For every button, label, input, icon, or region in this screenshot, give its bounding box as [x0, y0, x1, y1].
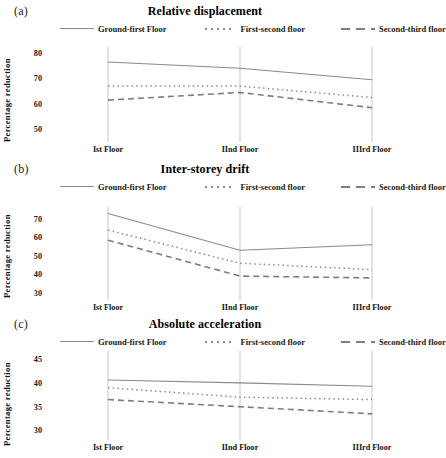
plot-area-b: 3040506070Ist FloorIInd FloorIIIrd Floor [0, 158, 404, 313]
y-tick-label: 30 [34, 289, 42, 298]
x-tick-label: Ist Floor [93, 303, 124, 312]
chart-svg-a: 50607080Ist FloorIInd FloorIIIrd Floor [0, 0, 404, 158]
x-tick-label: IInd Floor [222, 443, 259, 452]
panel-absolute-acceleration: (c) Absolute acceleration Ground-first F… [0, 313, 404, 458]
y-tick-label: 30 [34, 426, 42, 435]
x-tick-label: IIIrd Floor [353, 303, 392, 312]
chart-svg-b: 3040506070Ist FloorIInd FloorIIIrd Floor [0, 158, 404, 313]
x-tick-label: IIIrd Floor [353, 145, 392, 154]
y-tick-label: 60 [34, 233, 42, 242]
y-tick-label: 70 [34, 74, 42, 83]
chart-svg-c: 30354045Ist FloorIInd FloorIIIrd Floor [0, 313, 404, 458]
panel-inter-storey-drift: (b) Inter-storey drift Ground-first Floo… [0, 158, 404, 313]
panel-relative-displacement: (a) Relative displacement Ground-first F… [0, 0, 404, 158]
x-tick-label: IInd Floor [222, 145, 259, 154]
plot-area-c: 30354045Ist FloorIInd FloorIIIrd Floor [0, 313, 404, 458]
y-tick-label: 50 [34, 252, 42, 261]
y-tick-label: 80 [34, 49, 42, 58]
y-tick-label: 40 [34, 270, 42, 279]
x-tick-label: Ist Floor [93, 145, 124, 154]
y-tick-label: 35 [34, 403, 42, 412]
x-tick-label: IIIrd Floor [353, 443, 392, 452]
y-tick-label: 70 [34, 215, 42, 224]
y-tick-label: 50 [34, 125, 42, 134]
y-tick-label: 45 [34, 355, 42, 364]
y-tick-label: 60 [34, 100, 42, 109]
x-tick-label: Ist Floor [93, 443, 124, 452]
x-tick-label: IInd Floor [222, 303, 259, 312]
y-tick-label: 40 [34, 379, 42, 388]
plot-area-a: 50607080Ist FloorIInd FloorIIIrd Floor [0, 0, 404, 158]
